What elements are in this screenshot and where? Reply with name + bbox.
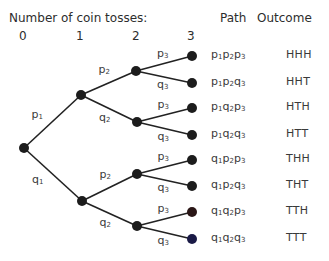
level1-node-0: [76, 90, 86, 100]
path-htt: p1q2q3: [211, 127, 245, 140]
level-label-2: 2: [132, 29, 140, 43]
level2-node-1: [132, 117, 142, 127]
edge-label-q1: q1: [32, 173, 43, 186]
outcome-ttt: TTT: [286, 231, 307, 244]
level2-node-2: [132, 169, 142, 179]
leaf-node-hth: [187, 103, 197, 113]
outcome-tth: TTH: [286, 204, 308, 217]
outcome-thh: THH: [286, 152, 310, 165]
edge-label-p3: p3: [158, 150, 169, 163]
path-column-heading: Path: [220, 11, 246, 25]
edge-label-q2: q2: [99, 111, 110, 124]
leaf-node-hhh: [187, 51, 197, 61]
edge-label-q2: q2: [100, 216, 111, 229]
path-hhh: p1p2p3: [211, 48, 245, 61]
edge-label-q3: q3: [158, 130, 169, 143]
path-tth: q1q2p3: [211, 204, 245, 217]
edge-label-p3: p3: [158, 202, 169, 215]
edge-root-0: [24, 95, 81, 148]
path-hht: p1p2q3: [211, 75, 245, 88]
edge-label-p3: p3: [158, 98, 169, 111]
leaf-node-hht: [187, 78, 197, 88]
edge-label-q3: q3: [157, 78, 168, 91]
leaf-node-tth: [187, 207, 197, 217]
edge-label-p1: p1: [32, 108, 43, 121]
path-hth: p1q2p3: [211, 100, 245, 113]
level1-node-1: [77, 196, 87, 206]
path-tht: q1p2q3: [211, 178, 245, 191]
outcome-htt: HTT: [286, 127, 308, 140]
edge-label-q3: q3: [158, 234, 169, 247]
level-label-1: 1: [76, 29, 84, 43]
level2-node-0: [131, 66, 141, 76]
edge-label-p3: p3: [157, 47, 168, 60]
level2-node-3: [132, 221, 142, 231]
outcome-hhh: HHH: [286, 48, 312, 61]
level-label-3: 3: [187, 29, 195, 43]
leaf-node-thh: [187, 155, 197, 165]
edge-label-p2: p2: [99, 63, 110, 76]
path-ttt: q1q2q3: [211, 231, 245, 244]
edge-label-q3: q3: [158, 181, 169, 194]
root-node: [19, 143, 29, 153]
tosses-heading: Number of coin tosses:: [9, 11, 147, 25]
outcome-hht: HHT: [286, 75, 310, 88]
path-thh: q1p2p3: [211, 152, 245, 165]
leaf-node-ttt: [187, 234, 197, 244]
leaf-node-htt: [187, 130, 197, 140]
leaf-node-tht: [187, 181, 197, 191]
edge-label-p2: p2: [100, 168, 111, 181]
level-label-0: 0: [19, 29, 27, 43]
outcome-hth: HTH: [286, 100, 310, 113]
outcome-column-heading: Outcome: [257, 11, 312, 25]
outcome-tht: THT: [286, 178, 309, 191]
